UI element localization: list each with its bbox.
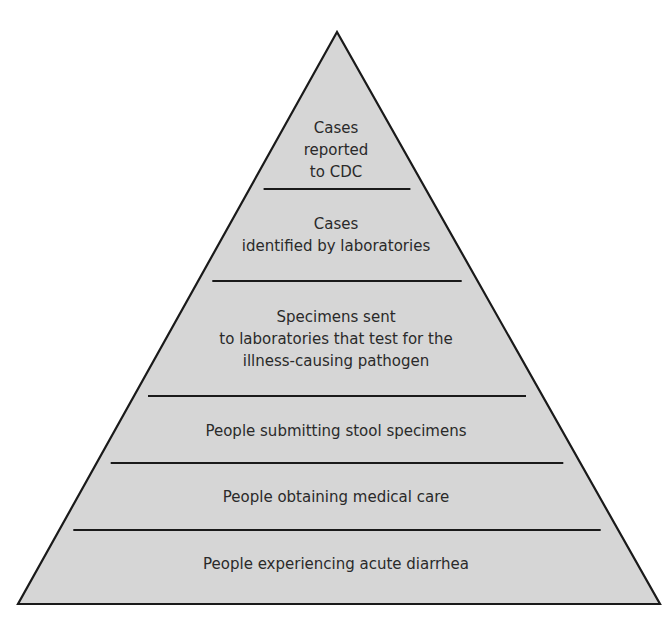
- tier-label-specimens-sent: Specimens sent to laboratories that test…: [0, 306, 672, 372]
- tier-label-cases-identified: Cases identified by laboratories: [0, 213, 672, 257]
- tier-label-acute-diarrhea: People experiencing acute diarrhea: [0, 553, 672, 575]
- tier-label-stool-specimens: People submitting stool specimens: [0, 420, 672, 442]
- tier-label-cases-reported: Cases reported to CDC: [0, 117, 672, 183]
- tier-label-medical-care: People obtaining medical care: [0, 486, 672, 508]
